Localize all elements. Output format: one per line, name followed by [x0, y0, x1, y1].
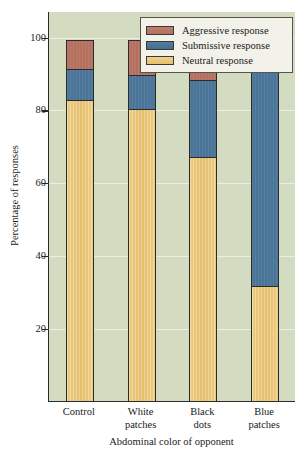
y-axis-tick-label: 60 [6, 178, 46, 189]
y-axis-tick-label: 100 [6, 33, 46, 44]
submissive-swatch-icon [146, 41, 174, 50]
bar-segment-neutral [128, 109, 156, 401]
legend-item-label: Neutral response [182, 55, 253, 66]
y-axis-tick-label: 80 [6, 105, 46, 116]
y-axis-title: Percentage of responses [9, 86, 20, 306]
stacked-bar [128, 40, 156, 401]
stacked-bar-chart-figure: Percentage of responses 20406080100 Cont… [0, 0, 304, 458]
bar-segment-neutral [189, 157, 217, 401]
stacked-bar [66, 40, 94, 401]
bar-segment-submissive [128, 75, 156, 110]
bar-segment-aggressive [66, 40, 94, 69]
legend-item-label: Aggressive response [182, 25, 269, 36]
legend-item-label: Submissive response [182, 40, 270, 51]
legend-item: Neutral response [146, 53, 286, 67]
y-axis-tick-label: 40 [6, 251, 46, 262]
legend-item: Aggressive response [146, 23, 286, 37]
bar-segment-neutral [251, 286, 279, 401]
bar-segment-neutral [66, 100, 94, 401]
bar-segment-submissive [66, 69, 94, 100]
x-axis-category-label: Bluepatches [227, 406, 301, 431]
x-axis-title: Abdominal color of opponent [48, 436, 295, 447]
y-axis-tick-label: 20 [6, 324, 46, 335]
aggressive-swatch-icon [146, 26, 174, 35]
legend: Aggressive responseSubmissive responseNe… [140, 17, 293, 73]
bar-segment-submissive [251, 60, 279, 286]
neutral-swatch-icon [146, 56, 174, 65]
stacked-bar [251, 40, 279, 401]
legend-item: Submissive response [146, 38, 286, 52]
stacked-bar [189, 40, 217, 401]
bar-segment-submissive [189, 80, 217, 157]
